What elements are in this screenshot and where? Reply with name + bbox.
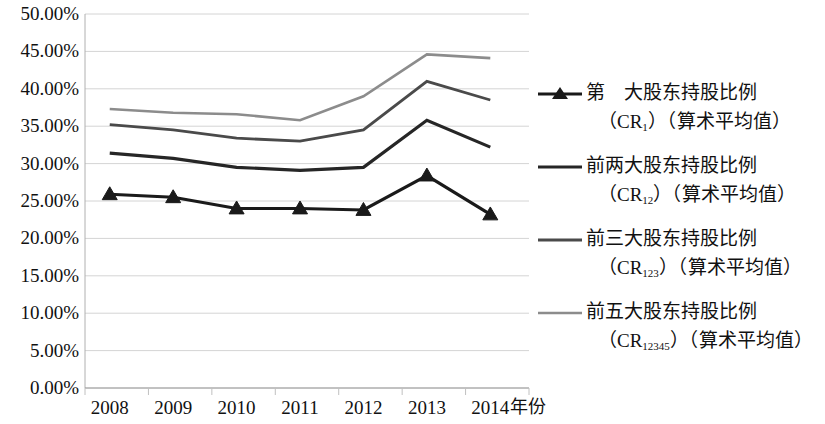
legend-label-line1: 前三大股东持股比例	[586, 228, 757, 249]
y-tick-label: 50.00%	[20, 4, 79, 23]
legend-label-line1: 第 大股东持股比例	[586, 82, 757, 103]
y-tick-label: 45.00%	[20, 41, 79, 60]
legend-cr-prefix: （CR	[598, 184, 642, 205]
legend-label-CR123: 前三大股东持股比例（CR123）（算术平均值）	[586, 224, 825, 288]
legend-label-CR12345: 前五大股东持股比例（CR12345）（算术平均值）	[586, 297, 825, 361]
legend-cr-suffix: ）（算术平均值）	[648, 111, 791, 132]
legend-label-CR1: 第 大股东持股比例（CR1）（算术平均值）	[586, 78, 825, 142]
legend-label-line2: （CR12345）（算术平均值）	[586, 326, 825, 361]
chart-legend: 第 大股东持股比例（CR1）（算术平均值）前两大股东持股比例（CR12）（算术平…	[538, 78, 825, 370]
x-tick-label: 2013	[395, 398, 459, 417]
legend-label-line2: （CR1）（算术平均值）	[586, 107, 825, 142]
legend-entry-CR123[interactable]: 前三大股东持股比例（CR123）（算术平均值）	[538, 224, 825, 284]
series-line-CR12	[110, 120, 491, 170]
gridlines-group	[85, 14, 529, 388]
data-point-marker	[419, 168, 434, 181]
legend-cr-subscript: 123	[642, 267, 659, 279]
legend-cr-suffix: ）（算术平均值）	[653, 184, 796, 205]
y-tick-label: 35.00%	[20, 116, 79, 135]
y-tick-label: 25.00%	[20, 191, 79, 210]
legend-label-line2: （CR123）（算术平均值）	[586, 253, 825, 288]
legend-swatch-CR12345	[538, 306, 582, 320]
legend-cr-suffix: ）（算术平均值）	[670, 330, 813, 351]
y-tick-label: 5.00%	[30, 341, 79, 360]
x-tick-label: 2010	[205, 398, 269, 417]
y-tick-label: 30.00%	[20, 154, 79, 173]
x-tick-label: 2011	[268, 398, 332, 417]
legend-label-line1: 前五大股东持股比例	[586, 301, 757, 322]
legend-cr-prefix: （CR	[598, 111, 642, 132]
y-tick-label: 0.00%	[30, 378, 79, 397]
legend-entry-CR12345[interactable]: 前五大股东持股比例（CR12345）（算术平均值）	[538, 297, 825, 357]
legend-label-CR12: 前两大股东持股比例（CR12）（算术平均值）	[586, 151, 825, 215]
chart-figure: 0.00%5.00%10.00%15.00%20.00%25.00%30.00%…	[0, 0, 825, 424]
legend-cr-prefix: （CR	[598, 257, 642, 278]
legend-cr-prefix: （CR	[598, 330, 642, 351]
x-axis-title: 年份	[510, 398, 546, 417]
x-tick-label: 2012	[331, 398, 395, 417]
legend-swatch-CR123	[538, 233, 582, 247]
data-series-group	[102, 54, 498, 219]
y-tick-label: 10.00%	[20, 303, 79, 322]
y-tick-label: 40.00%	[20, 79, 79, 98]
legend-label-line1: 前两大股东持股比例	[586, 155, 757, 176]
legend-entry-CR12[interactable]: 前两大股东持股比例（CR12）（算术平均值）	[538, 151, 825, 211]
legend-cr-suffix: ）（算术平均值）	[659, 257, 802, 278]
legend-label-line2: （CR12）（算术平均值）	[586, 180, 825, 215]
series-line-CR12345	[110, 54, 491, 120]
xtick-marks-group	[85, 388, 529, 395]
legend-cr-subscript: 12	[642, 194, 653, 206]
x-tick-label: 2008	[78, 398, 142, 417]
legend-swatch-CR1	[538, 87, 582, 101]
y-tick-label: 20.00%	[20, 228, 79, 247]
legend-cr-subscript: 12345	[642, 340, 670, 352]
data-point-marker	[483, 207, 498, 220]
y-tick-label: 15.00%	[20, 266, 79, 285]
legend-entry-CR1[interactable]: 第 大股东持股比例（CR1）（算术平均值）	[538, 78, 825, 138]
x-tick-label: 2009	[141, 398, 205, 417]
legend-swatch-CR12	[538, 160, 582, 174]
